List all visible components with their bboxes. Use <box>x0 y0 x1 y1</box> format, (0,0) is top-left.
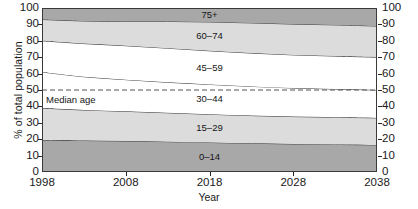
y-tick-mark-left-60 <box>38 74 42 75</box>
x-tick-label-2038: 2038 <box>355 177 399 189</box>
y-tick-label-right-60: 60 <box>382 68 395 80</box>
x-tick-mark-2008 <box>126 172 127 176</box>
y-tick-mark-right-70 <box>378 57 382 58</box>
y-tick-mark-left-20 <box>38 139 42 140</box>
band-label-45-59: 45–59 <box>196 63 222 73</box>
y-tick-label-right-20: 20 <box>382 133 395 145</box>
y-tick-mark-right-90 <box>378 24 382 25</box>
y-tick-label-right-50: 50 <box>382 84 395 96</box>
y-tick-mark-right-30 <box>378 123 382 124</box>
x-tick-label-2008: 2008 <box>104 177 148 189</box>
y-tick-mark-left-90 <box>38 24 42 25</box>
y-tick-mark-right-50 <box>378 90 382 91</box>
x-tick-label-1998: 1998 <box>20 177 64 189</box>
band-label-0-14: 0–14 <box>199 152 220 162</box>
y-tick-mark-right-10 <box>378 156 382 157</box>
y-tick-label-right-80: 80 <box>382 35 395 47</box>
x-tick-label-2018: 2018 <box>188 177 232 189</box>
x-tick-mark-2018 <box>210 172 211 176</box>
y-tick-mark-left-30 <box>38 123 42 124</box>
y-tick-mark-left-80 <box>38 41 42 42</box>
y-tick-mark-right-80 <box>378 41 382 42</box>
y-tick-label-right-30: 30 <box>382 117 395 129</box>
x-tick-mark-2028 <box>293 172 294 176</box>
band-label-75+: 75+ <box>201 10 217 20</box>
age-structure-area-chart: % of total population 0–1415–2930–4445–5… <box>0 0 418 209</box>
y-tick-mark-left-50 <box>38 90 42 91</box>
y-tick-label-right-70: 70 <box>382 51 395 63</box>
band-label-30-44: 30–44 <box>196 95 222 105</box>
band-label-60-74: 60–74 <box>196 32 222 42</box>
y-axis-label: % of total population <box>12 10 24 170</box>
y-tick-label-left-100: 100 <box>20 2 39 14</box>
y-tick-mark-left-40 <box>38 106 42 107</box>
y-tick-mark-right-20 <box>378 139 382 140</box>
band-label-15-29: 15–29 <box>196 124 222 134</box>
y-tick-label-right-40: 40 <box>382 100 395 112</box>
y-tick-label-right-90: 90 <box>382 18 395 30</box>
y-tick-mark-right-60 <box>378 74 382 75</box>
y-tick-mark-left-10 <box>38 156 42 157</box>
x-axis-label: Year <box>0 191 418 203</box>
y-tick-mark-left-70 <box>38 57 42 58</box>
y-tick-label-right-100: 100 <box>382 2 401 14</box>
y-tick-label-right-10: 10 <box>382 150 395 162</box>
median-age-annotation-label: Median age <box>46 95 96 105</box>
x-tick-label-2028: 2028 <box>271 177 315 189</box>
y-tick-mark-right-40 <box>378 106 382 107</box>
plot-area: 0–1415–2930–4445–5960–7475+ Median age <box>42 8 377 172</box>
